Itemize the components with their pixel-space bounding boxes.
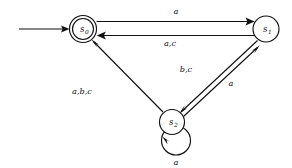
state-node-s0[interactable]: s 0 — [70, 16, 97, 43]
transition-label-s1-s2: b,c — [180, 64, 193, 74]
transition-label-s2-s1: a — [229, 78, 234, 88]
state-sublabel-s0: 0 — [85, 29, 89, 35]
start-arrow — [19, 25, 70, 32]
transition-label-s2-s0: a,b,c — [72, 86, 92, 96]
edge-s1-s0 — [97, 32, 256, 40]
edge-s2-s1 — [184, 45, 260, 116]
edge-s1-s2 — [179, 41, 257, 114]
state-node-s2[interactable]: s 2 — [160, 110, 185, 135]
state-machine-diagram: s 0 s 1 s 2 a a,c b,c a a,b,c a — [0, 0, 292, 168]
transition-label-s0-s1: a — [174, 6, 179, 16]
edge-s2-s0 — [91, 39, 163, 112]
edge-s0-s1 — [97, 18, 255, 26]
transition-label-s1-s0: a,c — [164, 38, 176, 48]
state-sublabel-s2: 2 — [173, 122, 178, 128]
state-node-s1[interactable]: s 1 — [253, 16, 279, 42]
transition-label-s2-self: a — [174, 157, 179, 167]
state-sublabel-s1: 1 — [268, 29, 272, 35]
